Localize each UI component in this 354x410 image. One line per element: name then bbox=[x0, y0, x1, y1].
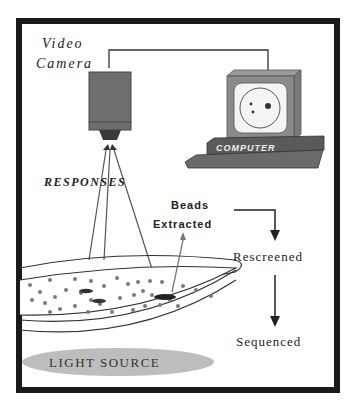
petri-dish bbox=[20, 256, 242, 332]
camera-computer-cable bbox=[109, 50, 268, 70]
bead-screening-diagram: Video Camera RESPONSES COMPUTER bbox=[0, 0, 354, 410]
response-lines bbox=[89, 150, 153, 272]
camera-label-line1: Video bbox=[42, 36, 84, 51]
video-camera-icon bbox=[89, 72, 131, 150]
down-arrow-icon bbox=[270, 316, 280, 327]
computer-label: COMPUTER bbox=[216, 143, 276, 153]
responses-label: RESPONSES bbox=[43, 175, 126, 189]
computer-icon bbox=[185, 70, 324, 168]
extracted-label: Extracted bbox=[153, 218, 212, 230]
beads-label: Beads bbox=[171, 199, 209, 211]
sequenced-label: Sequenced bbox=[236, 334, 301, 349]
extract-arrow-icon bbox=[180, 232, 186, 240]
rescreened-label: Rescreened bbox=[233, 249, 303, 264]
camera-label-line2: Camera bbox=[36, 56, 93, 71]
light-source-label: LIGHT SOURCE bbox=[49, 355, 160, 370]
down-arrow-icon bbox=[270, 230, 280, 241]
